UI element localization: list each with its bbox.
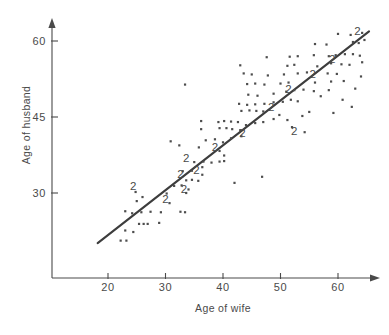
data-point bbox=[136, 200, 138, 202]
data-point bbox=[138, 223, 140, 225]
data-point bbox=[351, 106, 353, 108]
data-point bbox=[239, 64, 241, 66]
overlap-count-label: 2 bbox=[130, 180, 136, 192]
data-point bbox=[363, 39, 365, 41]
data-point bbox=[246, 104, 248, 106]
data-point bbox=[297, 55, 299, 57]
data-point bbox=[314, 81, 316, 83]
data-point bbox=[293, 89, 295, 91]
data-point bbox=[286, 65, 288, 67]
data-point bbox=[184, 211, 186, 213]
overlap-count-label: 2 bbox=[183, 152, 189, 164]
data-point bbox=[218, 160, 220, 162]
data-point bbox=[304, 131, 306, 133]
overlap-count-label: 2 bbox=[291, 125, 297, 137]
data-point bbox=[223, 154, 225, 156]
data-point bbox=[147, 223, 149, 225]
data-point bbox=[230, 120, 232, 122]
data-point bbox=[143, 223, 145, 225]
data-point bbox=[273, 93, 275, 95]
data-point bbox=[254, 103, 256, 105]
data-point bbox=[243, 72, 245, 74]
data-point bbox=[325, 43, 327, 45]
overlap-count-labels-group: 22222222222222 bbox=[130, 25, 361, 205]
data-point bbox=[330, 80, 332, 82]
data-point bbox=[278, 114, 280, 116]
data-point bbox=[248, 109, 250, 111]
data-point bbox=[361, 61, 363, 63]
scatter-plot-figure: 2030405060304560 22222222222222 Age of w… bbox=[0, 0, 389, 335]
data-point bbox=[225, 127, 227, 129]
data-point bbox=[238, 103, 240, 105]
overlap-count-label: 2 bbox=[329, 53, 335, 65]
x-tick-label: 40 bbox=[216, 281, 229, 293]
data-point bbox=[313, 90, 315, 92]
axis-labels-group: Age of wifeAge of husband bbox=[20, 86, 251, 314]
data-point bbox=[266, 56, 268, 58]
data-point bbox=[231, 128, 233, 130]
data-point bbox=[217, 121, 219, 123]
data-point bbox=[359, 55, 361, 57]
data-point bbox=[293, 64, 295, 66]
data-point bbox=[140, 211, 142, 213]
x-tick-label: 30 bbox=[159, 281, 172, 293]
data-point bbox=[297, 100, 299, 102]
data-point bbox=[149, 211, 151, 213]
data-point bbox=[191, 179, 193, 181]
y-axis-title: Age of husband bbox=[20, 86, 32, 164]
data-point bbox=[245, 124, 247, 126]
data-point bbox=[282, 101, 284, 103]
overlap-count-label: 2 bbox=[239, 127, 245, 139]
data-point bbox=[301, 115, 303, 117]
data-point bbox=[120, 240, 122, 242]
data-point bbox=[205, 139, 207, 141]
data-point bbox=[262, 110, 264, 112]
data-point bbox=[233, 182, 235, 184]
data-point bbox=[343, 80, 345, 82]
data-point bbox=[332, 112, 334, 114]
x-tick-label: 60 bbox=[331, 281, 344, 293]
data-point bbox=[327, 72, 329, 74]
data-point bbox=[342, 99, 344, 101]
data-point bbox=[254, 122, 256, 124]
data-point bbox=[302, 89, 304, 91]
data-point bbox=[240, 110, 242, 112]
data-point bbox=[125, 240, 127, 242]
data-point bbox=[170, 140, 172, 142]
x-tick-label: 50 bbox=[274, 281, 287, 293]
data-point bbox=[256, 95, 258, 97]
data-point bbox=[348, 64, 350, 66]
overlap-count-label: 2 bbox=[354, 25, 360, 37]
x-axis-arrowhead bbox=[370, 274, 380, 281]
data-point bbox=[344, 53, 346, 55]
data-point bbox=[360, 75, 362, 77]
data-point bbox=[173, 185, 175, 187]
data-point bbox=[230, 137, 232, 139]
data-point bbox=[336, 73, 338, 75]
data-point bbox=[201, 166, 203, 168]
overlap-count-label: 2 bbox=[193, 164, 199, 176]
y-axis-arrowhead bbox=[48, 18, 55, 28]
y-tick-label: 60 bbox=[33, 35, 46, 47]
data-point bbox=[306, 71, 308, 73]
data-point bbox=[179, 211, 181, 213]
x-tick-label: 20 bbox=[101, 281, 114, 293]
data-point bbox=[218, 150, 220, 152]
data-point bbox=[131, 212, 133, 214]
data-point bbox=[223, 160, 225, 162]
data-point bbox=[350, 34, 352, 36]
data-point bbox=[246, 83, 248, 85]
axes-group: 2030405060304560 bbox=[33, 18, 380, 293]
plot-canvas: 2030405060304560 22222222222222 Age of w… bbox=[0, 0, 389, 335]
data-point bbox=[337, 33, 339, 35]
data-point bbox=[160, 211, 162, 213]
overlap-count-label: 2 bbox=[177, 168, 183, 180]
data-point bbox=[297, 72, 299, 74]
data-point bbox=[262, 121, 264, 123]
data-point bbox=[308, 111, 310, 113]
data-point bbox=[187, 188, 189, 190]
overlap-count-label: 2 bbox=[309, 68, 315, 80]
data-point bbox=[222, 141, 224, 143]
data-point bbox=[168, 202, 170, 204]
data-point bbox=[132, 231, 134, 233]
